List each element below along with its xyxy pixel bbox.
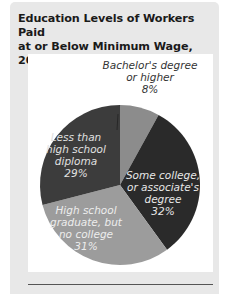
slice-label: Bachelor's degreeor higher8% [103,59,198,95]
